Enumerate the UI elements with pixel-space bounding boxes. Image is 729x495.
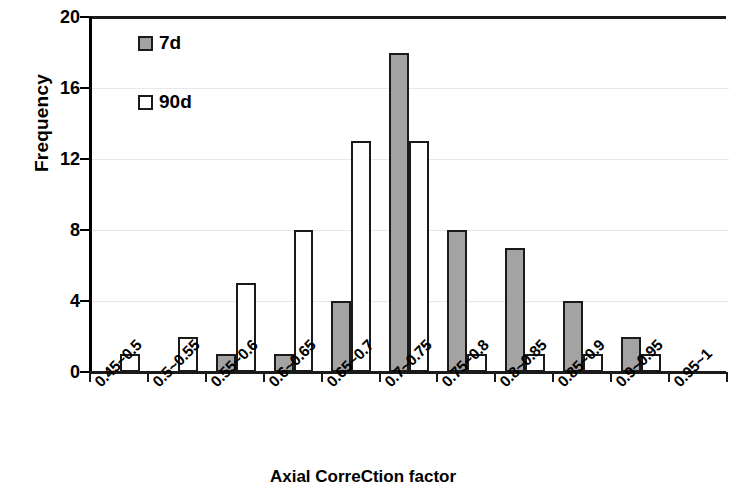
bar-group [382, 17, 440, 372]
bar-group [671, 17, 729, 372]
y-tick-mark [80, 229, 89, 231]
legend-swatch-7d-icon [138, 36, 153, 51]
bar-group [555, 17, 613, 372]
bar-group [324, 17, 382, 372]
bar-group [208, 17, 266, 372]
y-tick-mark [80, 158, 89, 160]
y-axis-ticks: 048121620 [38, 0, 80, 495]
bar-group [266, 17, 324, 372]
y-tick-label: 0 [40, 362, 80, 383]
legend-label-7d: 7d [159, 32, 181, 54]
legend-item-7d: 7d [138, 32, 181, 54]
plot-area [89, 17, 726, 372]
y-tick-mark [80, 300, 89, 302]
legend-label-90d: 90d [159, 91, 192, 113]
y-tick-label: 16 [40, 78, 80, 99]
bar-90d [409, 141, 429, 372]
bar-group [150, 17, 208, 372]
bar-group [497, 17, 555, 372]
legend-item-90d: 90d [138, 91, 192, 113]
bar-7d [389, 53, 409, 373]
y-tick-mark [80, 371, 89, 373]
y-tick-mark [80, 87, 89, 89]
y-tick-label: 12 [40, 149, 80, 170]
legend-swatch-90d-icon [138, 95, 153, 110]
y-tick-label: 4 [40, 291, 80, 312]
bar-90d [351, 141, 371, 372]
y-tick-mark [80, 16, 89, 18]
bars-layer [92, 17, 729, 372]
y-tick-label: 20 [40, 7, 80, 28]
bar-group [613, 17, 671, 372]
y-tick-label: 8 [40, 220, 80, 241]
bar-group [439, 17, 497, 372]
x-axis-title: Axial CorreCtion factor [0, 467, 726, 487]
x-tick-mark [726, 372, 728, 382]
bar-group [92, 17, 150, 372]
